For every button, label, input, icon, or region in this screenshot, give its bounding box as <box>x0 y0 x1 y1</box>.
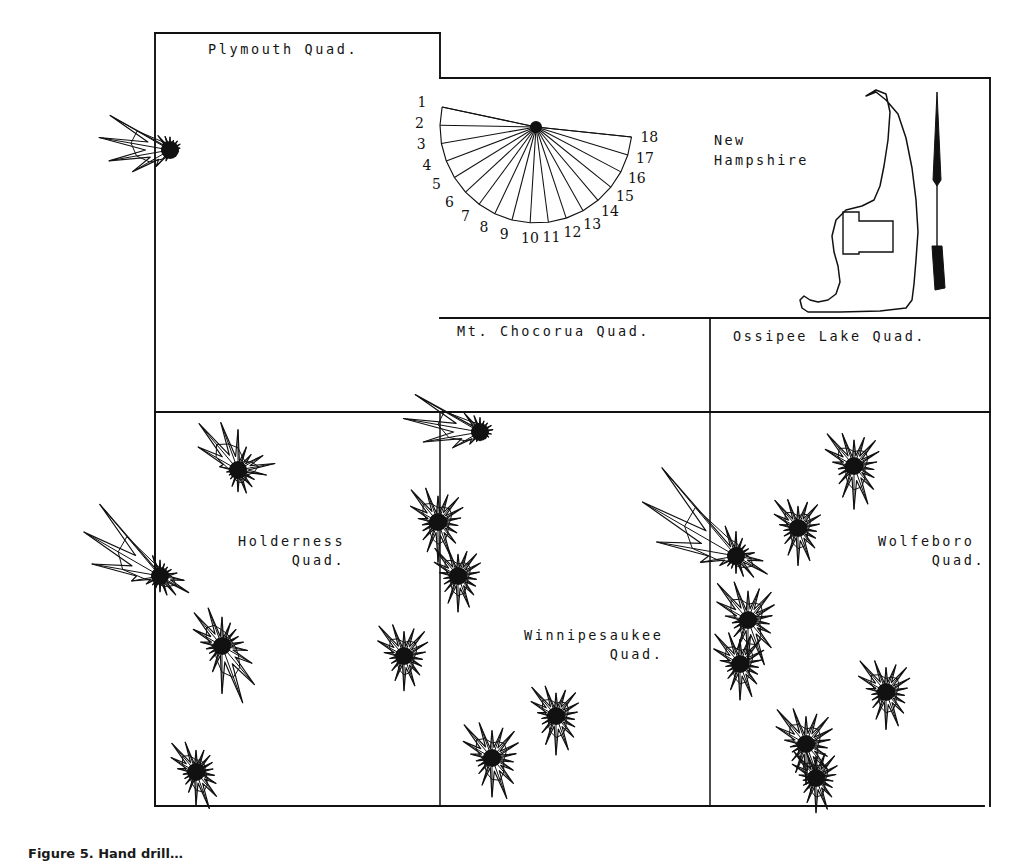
rose-r10 <box>463 723 518 799</box>
rose-hub <box>807 769 825 787</box>
rose-r11 <box>531 686 578 755</box>
quad-label-mt-chocorua: Mt. Chocorua Quad. <box>457 322 650 341</box>
legend-ray-label-10: 10 <box>521 230 539 246</box>
rose-hub <box>789 519 807 537</box>
rose-hub <box>483 749 501 767</box>
inset-title: NewHampshire <box>714 130 809 170</box>
rose-r12 <box>643 468 768 577</box>
rose-r9 <box>378 625 428 691</box>
rose-ray <box>536 127 611 187</box>
rose-hub <box>229 461 247 479</box>
legend-ray-label-18: 18 <box>640 129 658 145</box>
study-area-box <box>843 212 893 254</box>
rose-hub <box>877 683 895 701</box>
legend-ray-label-11: 11 <box>543 229 561 245</box>
rose-ray <box>466 127 537 192</box>
quad-label-holderness-line2: Quad. <box>238 552 345 568</box>
rose-hub <box>471 423 489 441</box>
legend-ray-label-15: 15 <box>616 188 634 204</box>
rose-star-outline <box>643 468 768 577</box>
rose-hub <box>739 611 757 629</box>
rose-r4 <box>193 608 254 703</box>
rose-hub <box>151 567 169 585</box>
legend-ray-label-4: 4 <box>422 157 431 173</box>
quad-label-wolfeboro: Wolfeboro Quad. <box>878 532 985 570</box>
inset-title-line2: Hampshire <box>714 152 809 168</box>
quad-label-wolfeboro-line2: Quad. <box>878 552 985 568</box>
quad-label-winnipesaukee-line1: Winnipesaukee <box>524 627 663 643</box>
quad-label-winnipesaukee: Winnipesaukee Quad. <box>524 626 663 664</box>
rose-r2 <box>198 423 275 493</box>
rose-hub <box>161 141 179 159</box>
legend-ray-label-17: 17 <box>636 150 654 166</box>
rose-ray <box>530 127 536 223</box>
north-arrow-tail <box>932 246 945 290</box>
rose-ray <box>199 424 238 470</box>
figure-caption: Figure 5. Hand drill… <box>28 846 928 863</box>
rose-r8 <box>434 548 480 612</box>
legend-ray-label-2: 2 <box>415 115 424 131</box>
rose-r6 <box>403 395 492 448</box>
rose-hub <box>187 763 205 781</box>
rose-r15 <box>825 434 879 510</box>
rose-hub <box>731 655 749 673</box>
rose-hub <box>395 647 413 665</box>
quad-label-ossipee-lake: Ossipee Lake Quad. <box>733 327 926 346</box>
nh-state-outline <box>800 90 918 312</box>
quad-label-holderness-line1: Holderness <box>238 533 345 549</box>
rose-ray <box>479 127 536 204</box>
rose-hub <box>213 637 231 655</box>
rose-hub <box>449 567 467 585</box>
legend-ray-label-6: 6 <box>445 194 454 210</box>
legend-ray-label-7: 7 <box>461 208 470 224</box>
rose-hub <box>530 121 542 133</box>
figure-artwork <box>0 0 1016 864</box>
rose-star-outline <box>84 504 189 595</box>
rose-ray <box>536 127 548 222</box>
rose-hub <box>547 707 565 725</box>
legend-ray-label-16: 16 <box>628 170 646 186</box>
rose-hub <box>727 547 745 565</box>
legend-ray-label-13: 13 <box>583 216 601 232</box>
legend-ray-label-5: 5 <box>432 176 441 192</box>
quad-label-wolfeboro-line1: Wolfeboro <box>878 533 975 549</box>
figure-root: Plymouth Quad. Mt. Chocorua Quad. Ossipe… <box>0 0 1016 864</box>
legend-ray-label-1: 1 <box>417 94 426 110</box>
legend-ray-label-12: 12 <box>564 224 582 240</box>
legend-ray-label-9: 9 <box>500 226 509 242</box>
quad-label-plymouth: Plymouth Quad. <box>208 40 358 59</box>
rose-ray <box>440 125 536 127</box>
rose-hub <box>429 513 447 531</box>
quad-label-holderness: Holderness Quad. <box>238 532 345 570</box>
legend-ray-label-3: 3 <box>417 136 426 152</box>
quad-label-winnipesaukee-line2: Quad. <box>524 646 663 662</box>
rose-r5 <box>171 742 216 808</box>
rose-ray <box>536 127 598 200</box>
rose-ray <box>512 127 536 220</box>
rose-r3 <box>84 504 189 595</box>
rose-r16 <box>774 500 820 566</box>
rose-hub <box>797 735 815 753</box>
inset-title-line1: New <box>714 132 746 148</box>
rose-star-outline <box>198 423 275 493</box>
legend-ray-label-14: 14 <box>601 203 619 219</box>
rose-r17 <box>859 661 910 730</box>
legend-ray-label-8: 8 <box>480 219 489 235</box>
rose-r1 <box>99 115 180 171</box>
rose-hub <box>845 457 863 475</box>
